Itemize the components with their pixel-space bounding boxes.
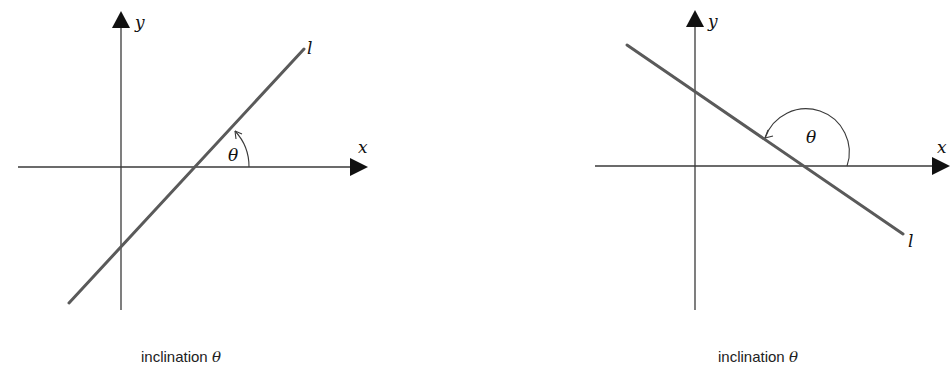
y-axis-arrow-icon	[686, 10, 704, 27]
caption: inclination θ	[718, 348, 798, 366]
caption-text: inclination	[141, 348, 212, 365]
x-axis-arrow-icon	[350, 158, 368, 176]
y-axis-label: y	[134, 12, 145, 32]
figure-positive-slope: y x l θ inclination θ	[18, 11, 368, 366]
y-axis-arrow-icon	[112, 11, 130, 28]
line-l	[69, 49, 304, 303]
x-axis-arrow-icon	[932, 157, 950, 175]
angle-arc-arrow-icon	[765, 130, 773, 138]
angle-label: θ	[806, 127, 816, 147]
y-axis-label: y	[707, 11, 718, 31]
line-l	[627, 45, 903, 234]
x-axis-label: x	[358, 137, 368, 157]
x-axis-label: x	[937, 137, 947, 157]
caption-symbol: θ	[212, 348, 221, 366]
caption-text: inclination	[718, 348, 789, 365]
inclination-diagrams: y x l θ inclination θ y x l θ inclinatio…	[0, 0, 950, 373]
angle-label: θ	[228, 145, 238, 165]
line-label: l	[307, 38, 312, 58]
line-label: l	[908, 231, 913, 251]
figure-negative-slope: y x l θ inclination θ	[595, 10, 950, 366]
caption-symbol: θ	[789, 348, 798, 366]
caption: inclination θ	[141, 348, 221, 366]
